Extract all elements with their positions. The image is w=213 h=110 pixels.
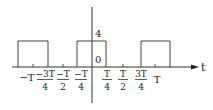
- tick-label-neg-3T-4-num: −3T: [35, 69, 54, 79]
- amplitude-label: 4: [95, 28, 101, 39]
- pulse-train-diagram: t 4 0 −T −3T 4 −T 2 −T 4 T 4 T 2 3T 4 T: [0, 0, 213, 110]
- tick-label-T-2-den: 2: [120, 82, 126, 92]
- tick-label-3T-4-num: 3T: [135, 69, 147, 79]
- tick-label-neg-T: −T: [19, 72, 34, 83]
- axis-arrow-icon: [191, 65, 199, 70]
- tick-label-neg-T-4-den: 4: [78, 82, 84, 92]
- pulse-right: [141, 41, 170, 67]
- tick-label-neg-3T-4-den: 4: [42, 82, 48, 92]
- tick-label-T-4-num: T: [104, 69, 110, 79]
- tick-label-neg-T-2-den: 2: [60, 82, 66, 92]
- tick-label-T-2-num: T: [120, 69, 126, 79]
- pulse-left: [18, 41, 48, 67]
- tick-label-T: T: [154, 74, 161, 85]
- tick-label-neg-T-2-num: −T: [56, 69, 70, 79]
- tick-label-neg-T-4-num: −T: [74, 69, 88, 79]
- t-axis-label: t: [201, 61, 206, 74]
- tick-label-3T-4-den: 4: [138, 82, 144, 92]
- tick-label-T-4-den: 4: [104, 82, 110, 92]
- origin-label: 0: [95, 54, 101, 65]
